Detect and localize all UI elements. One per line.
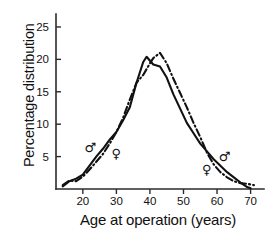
y-tick-label: 15 — [36, 86, 49, 98]
y-tick-label: 5 — [43, 151, 49, 163]
x-axis-title: Age at operation (years) — [46, 212, 270, 227]
chart-figure: 510152025 203040506070 Percentage distri… — [0, 0, 274, 238]
x-tick-label: 30 — [110, 195, 123, 207]
x-tick-label: 50 — [177, 195, 190, 207]
plot-area: 510152025 203040506070 — [0, 0, 274, 238]
male-marker-left: ♂ — [85, 141, 97, 154]
male-marker-right: ♂ — [219, 150, 231, 163]
x-tick-label: 40 — [144, 195, 157, 207]
female-marker-right: ♀ — [202, 163, 212, 176]
data-curves — [63, 53, 254, 188]
axes — [56, 14, 264, 194]
y-axis-title: Percentage distribution — [22, 10, 37, 180]
curve-female — [63, 53, 254, 185]
x-tick-label: 60 — [211, 195, 224, 207]
y-tick-label: 25 — [36, 21, 49, 33]
y-tick-label: 20 — [36, 53, 49, 65]
x-axis-tick-labels: 203040506070 — [76, 195, 257, 207]
y-axis-tick-labels: 510152025 — [36, 21, 49, 163]
x-tick-label: 70 — [244, 195, 257, 207]
female-marker-left: ♀ — [111, 147, 121, 160]
x-tick-label: 20 — [76, 195, 89, 207]
y-tick-label: 10 — [36, 118, 49, 130]
